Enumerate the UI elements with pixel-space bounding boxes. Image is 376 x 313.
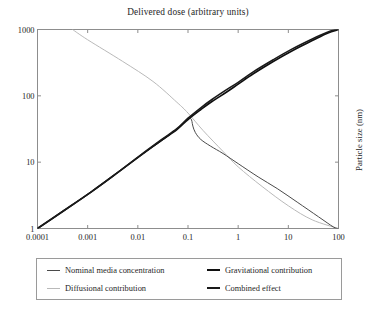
chart-figure: Delivered dose (arbitrary units) 0.00010…: [0, 0, 376, 313]
x-tick-label: 0.01: [130, 233, 145, 242]
x-tick-label: 1: [236, 233, 240, 242]
legend-line-swatch-icon: [207, 287, 220, 289]
legend-item-label: Gravitational contribution: [225, 266, 312, 275]
legend-item-label: Nominal media concentration: [65, 266, 165, 275]
x-tick-label: 0.0001: [26, 233, 49, 242]
legend-item[interactable]: Gravitational contribution: [207, 266, 353, 275]
legend-item[interactable]: Nominal media concentration: [47, 266, 207, 275]
legend-line-swatch-icon: [47, 270, 60, 271]
y-tick-label: 1: [30, 224, 34, 233]
legend-item-label: Combined effect: [225, 284, 281, 293]
x-tick-label: 10: [284, 233, 292, 242]
legend-line-swatch-icon: [47, 288, 60, 289]
y-tick-label: 10: [26, 158, 34, 167]
x-tick-label: 0.001: [78, 233, 97, 242]
y-tick-label: 100: [22, 91, 35, 100]
legend-grid: Nominal media concentrationGravitational…: [37, 259, 341, 299]
x-tick-label: 0.1: [183, 233, 193, 242]
chart-legend: Nominal media concentrationGravitational…: [36, 258, 342, 300]
legend-item[interactable]: Combined effect: [207, 284, 353, 293]
y-axis-title: Particle size (nm): [354, 109, 364, 171]
legend-item[interactable]: Diffusional contribution: [47, 284, 207, 293]
legend-item-label: Diffusional contribution: [65, 284, 146, 293]
y-tick-label: 1000: [18, 25, 35, 34]
x-tick-label: 100: [332, 233, 345, 242]
legend-line-swatch-icon: [207, 269, 220, 271]
